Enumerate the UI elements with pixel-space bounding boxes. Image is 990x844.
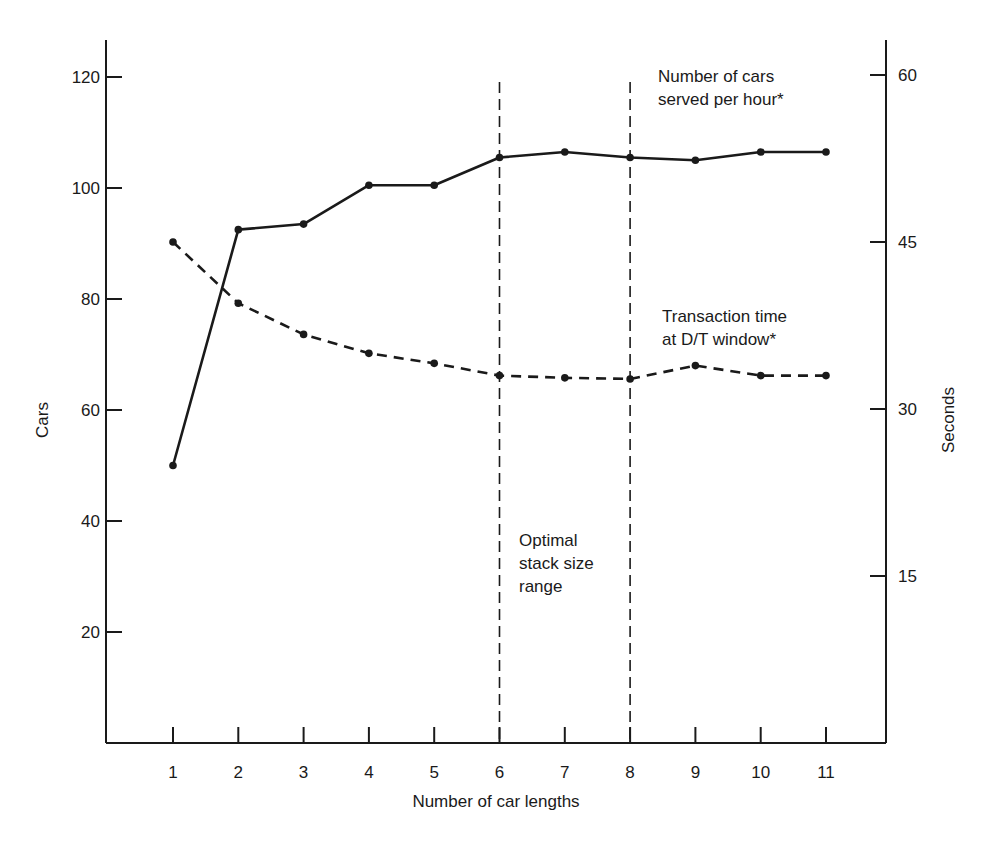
y2-tick-label: 45 xyxy=(898,233,917,252)
optimal-range-lines xyxy=(500,82,631,743)
data-point xyxy=(626,154,634,162)
left-y-axis-title: Cars xyxy=(33,402,52,438)
annotation-line: Number of cars xyxy=(658,67,774,86)
right-y-ticks: 15304560 xyxy=(870,66,917,586)
x-tick-label: 8 xyxy=(625,763,634,782)
x-tick-label: 11 xyxy=(817,763,835,782)
annotation-line: range xyxy=(519,577,562,596)
data-point xyxy=(235,226,243,234)
annotation-line: at D/T window* xyxy=(662,330,776,349)
data-point xyxy=(169,462,177,470)
data-point xyxy=(300,220,308,228)
y-tick-label: 20 xyxy=(81,623,100,642)
x-axis-title: Number of car lengths xyxy=(412,792,579,811)
data-point xyxy=(822,372,830,380)
axes xyxy=(106,40,886,743)
x-tick-label: 4 xyxy=(364,763,373,782)
data-point xyxy=(822,148,830,156)
data-point xyxy=(496,154,504,162)
data-point xyxy=(757,372,765,380)
x-tick-label: 2 xyxy=(234,763,243,782)
x-tick-label: 9 xyxy=(691,763,700,782)
annotation-line: Optimal xyxy=(519,531,578,550)
data-point xyxy=(300,331,308,339)
annotation-line: Transaction time xyxy=(662,307,787,326)
left-y-ticks: 20406080100120 xyxy=(72,68,122,642)
y2-tick-label: 60 xyxy=(898,66,917,85)
data-point xyxy=(365,350,373,358)
y-tick-label: 60 xyxy=(81,401,100,420)
data-point xyxy=(692,156,700,164)
y-tick-label: 120 xyxy=(72,68,100,87)
annotation-optimal-range: Optimal stack size range xyxy=(519,531,594,596)
data-point xyxy=(430,181,438,189)
y2-tick-label: 15 xyxy=(898,567,917,586)
data-point xyxy=(561,374,569,382)
x-tick-label: 5 xyxy=(429,763,438,782)
data-point xyxy=(561,148,569,156)
data-point xyxy=(757,148,765,156)
x-tick-label: 6 xyxy=(495,763,504,782)
data-point xyxy=(430,360,438,368)
right-y-axis-title: Seconds xyxy=(939,387,958,453)
y-tick-label: 80 xyxy=(81,290,100,309)
annotation-cars-served: Number of cars served per hour* xyxy=(658,67,784,109)
annotation-transaction-time: Transaction time at D/T window* xyxy=(662,307,787,349)
y-tick-label: 100 xyxy=(72,179,100,198)
annotation-line: served per hour* xyxy=(658,90,784,109)
data-point xyxy=(692,362,700,370)
data-point xyxy=(365,181,373,189)
y2-tick-label: 30 xyxy=(898,400,917,419)
data-point xyxy=(169,238,177,246)
x-tick-label: 1 xyxy=(168,763,177,782)
drive-through-stack-chart: 20406080100120 15304560 1234567891011 Nu… xyxy=(0,0,990,844)
y-tick-label: 40 xyxy=(81,512,100,531)
x-ticks: 1234567891011 xyxy=(168,727,835,782)
x-tick-label: 7 xyxy=(560,763,569,782)
data-point xyxy=(626,375,634,383)
x-tick-label: 3 xyxy=(299,763,308,782)
x-tick-label: 10 xyxy=(751,763,770,782)
annotation-line: stack size xyxy=(519,554,594,573)
data-point xyxy=(496,372,504,380)
data-point xyxy=(235,299,243,307)
